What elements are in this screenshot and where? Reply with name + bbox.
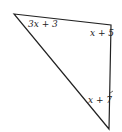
angle-label-top-left: 3x + 3 (28, 19, 58, 29)
tick-mark (110, 91, 113, 93)
triangle-diagram: 3x + 3 x + 5 x + 7 (0, 0, 122, 132)
angle-label-bottom: x + 7 (88, 95, 112, 105)
angle-label-top-right: x + 5 (90, 28, 114, 38)
